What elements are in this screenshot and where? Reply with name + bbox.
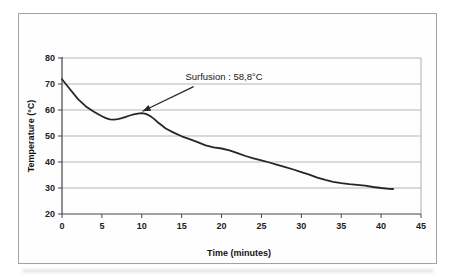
x-tick-label-0: 0 (59, 221, 64, 231)
annotation-arrow-group (143, 87, 194, 112)
temperature-cooling-chart: 20304050607080051015202530354045 Surfusi… (19, 14, 436, 263)
y-tick-label-50: 50 (45, 131, 55, 141)
y-tick-label-40: 40 (45, 157, 55, 167)
x-tick-label-45: 45 (416, 221, 426, 231)
surfusion-annotation-label: Surfusion : 58,8°C (185, 71, 262, 82)
y-tick-label-60: 60 (45, 105, 55, 115)
figure-frame: 20304050607080051015202530354045 Surfusi… (18, 13, 437, 264)
y-tick-label-30: 30 (45, 183, 55, 193)
y-tick-label-70: 70 (45, 79, 55, 89)
x-tick-label-15: 15 (177, 221, 187, 231)
x-axis-title: Time (minutes) (207, 248, 271, 258)
x-tick-label-5: 5 (99, 221, 104, 231)
annotation-arrowhead (143, 105, 152, 111)
scan-artifact-smudge (22, 269, 434, 273)
y-axis-title: Temperature (°C) (26, 100, 36, 172)
y-tick-label-20: 20 (45, 209, 55, 219)
x-tick-label-35: 35 (336, 221, 346, 231)
y-tick-label-80: 80 (45, 53, 55, 63)
series-group (62, 79, 393, 189)
annotation-arrow-line (143, 87, 194, 112)
x-tick-label-40: 40 (376, 221, 386, 231)
x-tick-label-30: 30 (296, 221, 306, 231)
x-tick-label-20: 20 (217, 221, 227, 231)
x-tick-label-10: 10 (137, 221, 147, 231)
temperature-cooling-curve (62, 79, 393, 189)
x-tick-label-25: 25 (256, 221, 266, 231)
